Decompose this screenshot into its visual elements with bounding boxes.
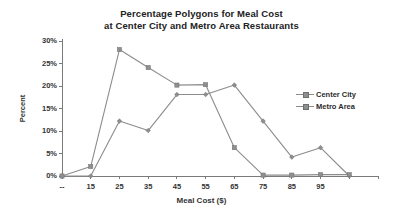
x-axis-title: Meal Cost ($) xyxy=(0,196,403,205)
data-point-marker xyxy=(146,65,150,69)
data-point-marker xyxy=(318,173,322,177)
y-axis-tick-label: 25% xyxy=(42,59,57,68)
data-point-marker xyxy=(89,164,93,168)
data-point-marker xyxy=(60,174,64,178)
series-line-metro-area xyxy=(62,50,349,176)
x-axis-tick-label: 95 xyxy=(301,182,341,191)
y-axis-tick-label: 0% xyxy=(46,171,57,180)
data-point-marker xyxy=(88,174,93,179)
data-point-marker xyxy=(290,173,294,177)
y-axis-title: Percent xyxy=(18,84,27,134)
y-axis-tick-label: 20% xyxy=(42,81,57,90)
y-axis-tick-label: 15% xyxy=(42,104,57,113)
data-point-marker xyxy=(261,173,265,177)
data-point-marker xyxy=(175,83,179,87)
data-point-marker xyxy=(204,83,208,87)
legend-label-metro-area: Metro Area xyxy=(316,102,355,111)
data-point-marker xyxy=(117,119,122,124)
y-axis-tick-label: 30% xyxy=(42,36,57,45)
legend-marker-diamond-icon xyxy=(296,90,314,98)
legend-label-center-city: Center City xyxy=(316,90,356,99)
data-point-marker xyxy=(232,146,236,150)
y-axis-tick-label: 10% xyxy=(42,126,57,135)
legend-marker-square-icon xyxy=(296,102,314,110)
chart-figure: Percentage Polygons for Meal Cost at Cen… xyxy=(0,0,403,219)
data-point-marker xyxy=(117,47,121,51)
data-point-marker xyxy=(203,92,208,97)
data-point-marker xyxy=(347,173,351,177)
y-axis-tick-label: 5% xyxy=(46,149,57,158)
chart-legend: Center City Metro Area xyxy=(296,88,356,112)
legend-item-metro-area: Metro Area xyxy=(296,100,356,112)
legend-item-center-city: Center City xyxy=(296,88,356,100)
